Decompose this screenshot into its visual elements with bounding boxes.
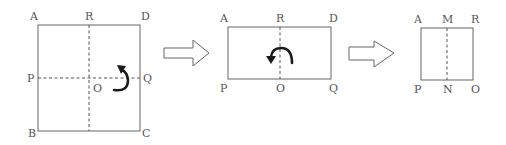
label-A: A — [29, 10, 39, 23]
label-R: R — [85, 10, 94, 23]
label-O: O — [93, 82, 102, 95]
panel-2-rectangle: A R D P O Q — [219, 12, 338, 95]
right-arrow-icon — [349, 41, 394, 67]
label-N: N — [443, 83, 453, 96]
label-D: D — [329, 12, 338, 25]
label-B: B — [28, 127, 36, 140]
label-P: P — [27, 72, 35, 85]
label-A: A — [219, 12, 229, 25]
label-O: O — [471, 83, 480, 96]
label-R: R — [276, 12, 285, 25]
panel-1-square: A R D P O Q B C — [27, 10, 152, 140]
panel-3-square: A M R P N O — [413, 13, 480, 96]
label-P: P — [220, 82, 228, 95]
label-Q: Q — [143, 72, 152, 85]
label-Q: Q — [329, 82, 338, 95]
label-A: A — [413, 13, 423, 26]
label-P: P — [414, 83, 422, 96]
label-M: M — [442, 13, 453, 26]
folding-diagram: A R D P O Q B C A R D P O Q A M R P N O — [0, 0, 506, 145]
label-R: R — [471, 13, 480, 26]
right-arrow-icon — [164, 40, 209, 66]
label-D: D — [141, 10, 150, 23]
fold-left-arrow-icon — [266, 48, 292, 64]
label-C: C — [142, 127, 150, 140]
label-O: O — [276, 82, 285, 95]
